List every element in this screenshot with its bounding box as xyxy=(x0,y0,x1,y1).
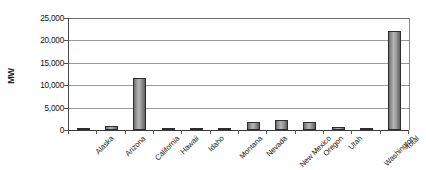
x-axis-category-label: Arizona xyxy=(123,134,147,158)
y-axis-tick-labels: 25,00020,00015,00010,0005,0000 xyxy=(18,0,68,170)
bar xyxy=(303,122,316,131)
x-axis-category-label: Nevada xyxy=(265,134,289,158)
bar xyxy=(388,31,401,130)
x-axis-category-label: Montana xyxy=(237,134,264,161)
x-axis-category-label: Hawaii xyxy=(179,134,201,156)
bar xyxy=(133,78,146,130)
bars-container xyxy=(69,18,409,130)
y-axis-tick-label: 25,000 xyxy=(40,14,64,23)
bar xyxy=(275,120,288,130)
bar-chart-figure: MW 25,00020,00015,00010,0005,0000 Alaska… xyxy=(0,0,426,170)
x-axis-category-label: Idaho xyxy=(206,134,225,153)
bar xyxy=(247,122,260,130)
x-axis-category-label: Alaska xyxy=(94,134,116,156)
y-axis-tick-label: 5,000 xyxy=(45,103,65,112)
y-axis-tick-label: 20,000 xyxy=(40,36,64,45)
x-axis-category-label: California xyxy=(153,134,181,162)
y-axis-tick-label: 15,000 xyxy=(40,58,64,67)
x-axis-category-label: Utah xyxy=(347,134,364,151)
y-axis-tick-label: 10,000 xyxy=(40,81,64,90)
x-axis-category-labels: AlaskaArizonaCaliforniaHawaiiIdahoMontan… xyxy=(68,134,408,170)
plot-area xyxy=(68,18,410,130)
